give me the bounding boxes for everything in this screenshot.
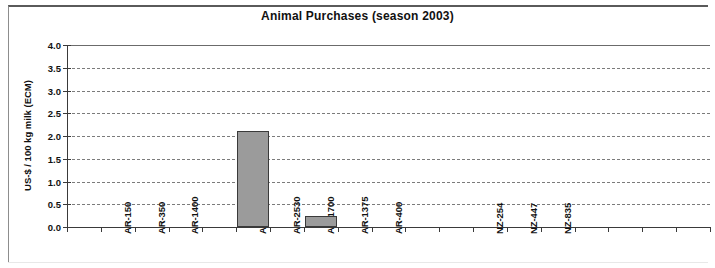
y-tick-label: 0.5 (48, 199, 61, 210)
x-tick-mark (473, 227, 474, 232)
x-tick-mark (67, 227, 68, 232)
x-tick-mark (608, 227, 609, 232)
x-tick-label: AR-150 (122, 202, 133, 234)
x-tick-mark (135, 227, 136, 232)
x-tick-label: AR-2530 (291, 197, 302, 234)
x-tick-mark (338, 227, 339, 232)
y-tick-mark (63, 136, 71, 137)
gridline (67, 136, 710, 137)
bar (305, 216, 337, 227)
plot-area: 0.00.51.01.52.02.53.03.54.0 AR-150AR-350… (67, 45, 710, 227)
scan-edge (8, 262, 708, 263)
y-tick-label: 0.0 (48, 222, 61, 233)
y-tick-label: 3.0 (48, 85, 61, 96)
y-tick-label: 1.0 (48, 176, 61, 187)
gridline (67, 91, 710, 92)
y-tick-mark (63, 204, 71, 205)
x-tick-mark (439, 227, 440, 232)
chart-title: Animal Purchases (season 2003) (0, 9, 715, 23)
gridline (67, 45, 710, 46)
y-tick-label: 2.0 (48, 131, 61, 142)
y-tick-mark (63, 113, 71, 114)
gridline (67, 182, 710, 183)
x-tick-mark (405, 227, 406, 232)
x-tick-mark (304, 227, 305, 232)
y-tick-label: 1.5 (48, 153, 61, 164)
x-tick-label: AR-400 (393, 202, 404, 234)
x-tick-label: AR-1375 (359, 197, 370, 234)
x-tick-label: NZ-447 (528, 203, 539, 234)
gridline (67, 68, 710, 69)
x-tick-mark (372, 227, 373, 232)
y-tick-mark (63, 68, 71, 69)
gridline (67, 113, 710, 114)
y-tick-mark (63, 45, 71, 46)
y-tick-mark (63, 159, 71, 160)
x-tick-mark (236, 227, 237, 232)
x-tick-label: AR-1400 (189, 197, 200, 234)
y-axis-title: US-$ / 100 kg milk (ECM) (22, 46, 33, 226)
x-tick-mark (507, 227, 508, 232)
x-tick-mark (270, 227, 271, 232)
x-tick-mark (202, 227, 203, 232)
x-tick-mark (676, 227, 677, 232)
x-tick-mark (642, 227, 643, 232)
y-tick-mark (63, 91, 71, 92)
y-tick-label: 2.5 (48, 108, 61, 119)
x-tick-mark (541, 227, 542, 232)
x-tick-mark (710, 227, 711, 232)
gridline (67, 159, 710, 160)
y-tick-label: 4.0 (48, 40, 61, 51)
y-tick-label: 3.5 (48, 62, 61, 73)
bar (237, 131, 269, 227)
x-tick-label: NZ-254 (494, 203, 505, 234)
x-tick-label: AR-350 (156, 202, 167, 234)
x-tick-label: NZ-835 (562, 203, 573, 234)
x-tick-mark (101, 227, 102, 232)
x-tick-mark (169, 227, 170, 232)
y-tick-mark (63, 182, 71, 183)
x-tick-mark (575, 227, 576, 232)
